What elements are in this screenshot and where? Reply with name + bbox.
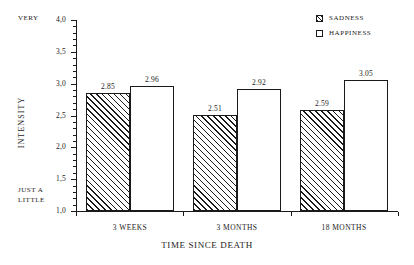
y-axis-tick-minor [73, 122, 76, 123]
y-axis-tick-minor [73, 141, 76, 142]
x-axis-title: TIME SINCE DEATH [0, 240, 414, 250]
x-axis-tick [183, 212, 184, 216]
y-axis-tick-label: 2,0 [42, 142, 66, 151]
bar-happiness-1 [237, 89, 281, 211]
x-axis-tick [291, 212, 292, 216]
x-axis-line [76, 211, 398, 212]
y-axis-tick-label: 3,5 [42, 47, 66, 56]
legend-swatch-hatched-icon [316, 15, 323, 22]
x-axis-category-label: 3 WEEKS [85, 223, 175, 232]
x-axis-tick [398, 212, 399, 216]
bar-value-label: 2.59 [302, 99, 342, 108]
y-axis-tick-major [71, 52, 76, 53]
bar-sadness-0 [86, 93, 130, 211]
y-axis-tick-minor [73, 33, 76, 34]
y-axis-tick-minor [73, 173, 76, 174]
bar-value-label: 2.92 [239, 78, 279, 87]
y-axis-tick-major [71, 147, 76, 148]
y-axis-tick-minor [73, 135, 76, 136]
y-axis-tick-minor [73, 186, 76, 187]
y-axis-tick-major [71, 116, 76, 117]
y-axis-tick-minor [73, 77, 76, 78]
legend-label-sadness: SADNESS [329, 14, 364, 22]
bar-happiness-2 [344, 80, 388, 211]
scale-anchor-low-line1: JUST A [18, 186, 45, 196]
y-axis-tick-major [71, 20, 76, 21]
bar-value-label: 2.96 [132, 75, 172, 84]
legend-item-happiness: HAPPINESS [316, 27, 371, 39]
y-axis-tick-minor [73, 58, 76, 59]
bar-sadness-1 [193, 115, 237, 211]
bar-value-label: 2.51 [195, 104, 235, 113]
bar-chart: VERY JUST A LITTLE INTENSITY 4,03,53,02,… [0, 0, 414, 265]
y-axis-title: INTENSITY [17, 83, 26, 163]
y-axis-tick-minor [73, 71, 76, 72]
y-axis-tick-minor [73, 154, 76, 155]
y-axis-tick-minor [73, 160, 76, 161]
legend-label-happiness: HAPPINESS [329, 29, 371, 37]
y-axis-tick-minor [73, 128, 76, 129]
bar-value-label: 2.85 [88, 82, 128, 91]
y-axis-tick-major [71, 84, 76, 85]
scale-anchor-low-line2: LITTLE [18, 196, 45, 206]
y-axis-tick-minor [73, 45, 76, 46]
y-axis-tick-minor [73, 198, 76, 199]
legend: SADNESS HAPPINESS [316, 12, 371, 42]
y-axis-tick-label: 1,0 [42, 206, 66, 215]
bar-happiness-0 [130, 86, 174, 211]
y-axis-tick-minor [73, 65, 76, 66]
y-axis-tick-minor [73, 166, 76, 167]
bar-value-label: 3.05 [346, 69, 386, 78]
scale-anchor-low: JUST A LITTLE [18, 186, 45, 205]
y-axis-tick-minor [73, 205, 76, 206]
x-axis-tick [76, 212, 77, 216]
legend-swatch-empty-icon [316, 30, 323, 37]
scale-anchor-high: VERY [18, 14, 39, 22]
y-axis-tick-label: 1,5 [42, 174, 66, 183]
y-axis-line [76, 20, 77, 212]
y-axis-tick-minor [73, 192, 76, 193]
y-axis-tick-minor [73, 109, 76, 110]
legend-item-sadness: SADNESS [316, 12, 371, 24]
y-axis-tick-label: 2,5 [42, 111, 66, 120]
y-axis-tick-major [71, 179, 76, 180]
y-axis-tick-label: 4,0 [42, 15, 66, 24]
x-axis-category-label: 3 MONTHS [192, 223, 282, 232]
y-axis-tick-minor [73, 103, 76, 104]
y-axis-tick-minor [73, 39, 76, 40]
y-axis-tick-label: 3,0 [42, 79, 66, 88]
bar-sadness-2 [300, 110, 344, 211]
x-axis-category-label: 18 MONTHS [299, 223, 389, 232]
y-axis-tick-minor [73, 90, 76, 91]
y-axis-tick-minor [73, 96, 76, 97]
y-axis-tick-minor [73, 26, 76, 27]
